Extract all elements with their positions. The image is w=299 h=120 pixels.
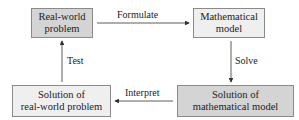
node-line: problem xyxy=(38,23,85,35)
node-line: Mathematical xyxy=(200,11,258,23)
node-line: model xyxy=(200,23,258,35)
node-line: Solution of xyxy=(193,89,278,101)
mathematical-model-node: Mathematical model xyxy=(193,8,265,38)
formulate-label: Formulate xyxy=(117,9,158,20)
solution-real-world-node: Solution of real-world problem xyxy=(12,85,111,117)
test-label: Test xyxy=(67,55,84,66)
real-world-problem-node: Real-world problem xyxy=(31,8,93,38)
node-line: mathematical model xyxy=(193,101,278,113)
node-line: real-world problem xyxy=(21,101,102,113)
node-line: Solution of xyxy=(21,89,102,101)
interpret-label: Interpret xyxy=(125,87,159,98)
solution-math-model-node: Solution of mathematical model xyxy=(177,85,294,117)
solve-label: Solve xyxy=(235,55,258,66)
node-line: Real-world xyxy=(38,11,85,23)
